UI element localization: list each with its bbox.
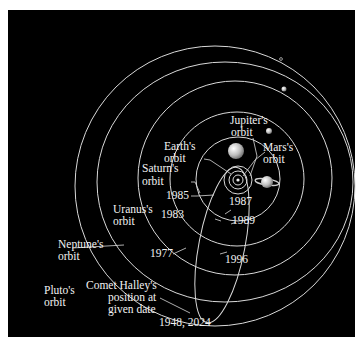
saturn-label-1: Saturn's (142, 162, 179, 174)
date-1985: 1985 (166, 189, 189, 201)
jupiter-label-2: orbit (231, 126, 254, 138)
diagram-labels: Jupiter's orbit Earth's orbit Mars's orb… (0, 0, 361, 344)
neptune-label-2: orbit (58, 250, 81, 262)
date-1948-2024: 1948, 2024 (159, 316, 211, 329)
earth-label-1: Earth's (164, 140, 196, 152)
pluto-label-2: orbit (44, 296, 67, 308)
mars-label-2: orbit (263, 153, 286, 165)
date-1996: 1996 (225, 253, 248, 265)
halley-label-3: given date (108, 303, 156, 316)
date-1989: 1989 (232, 214, 255, 226)
mars-label-1: Mars's (263, 141, 294, 153)
date-1983: 1983 (161, 208, 184, 220)
pluto-label-1: Pluto's (44, 284, 75, 296)
uranus-label-2: orbit (113, 215, 136, 227)
date-1977: 1977 (150, 247, 173, 259)
saturn-label-2: orbit (142, 175, 165, 187)
date-1987: 1987 (229, 195, 252, 207)
uranus-label-1: Uranus's (113, 203, 153, 215)
